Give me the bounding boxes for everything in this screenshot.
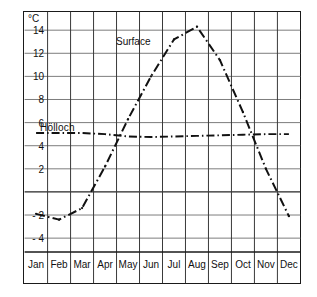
x-tick-sep: Sep — [211, 259, 229, 270]
chart-plot-area — [0, 0, 317, 297]
series-label-holloch: Hölloch — [40, 122, 75, 133]
y-tick-neg4: - 4 — [18, 233, 44, 244]
x-tick-oct: Oct — [235, 259, 251, 270]
x-tick-apr: Apr — [97, 259, 113, 270]
x-tick-dec: Dec — [280, 259, 298, 270]
x-tick-aug: Aug — [188, 259, 206, 270]
y-tick-4: 4 — [18, 140, 44, 151]
y-tick-10: 10 — [18, 71, 44, 82]
temperature-chart: °C 1412108642- 2- 4 JanFebMarAprMayJunJu… — [0, 0, 317, 297]
x-tick-jan: Jan — [28, 259, 44, 270]
x-tick-may: May — [119, 259, 138, 270]
series-label-surface: Surface — [116, 36, 150, 47]
x-tick-jul: Jul — [168, 259, 181, 270]
y-tick-14: 14 — [18, 25, 44, 36]
y-tick-neg2: - 2 — [18, 210, 44, 221]
y-axis-tick-labels: 1412108642- 2- 4 — [0, 0, 44, 297]
x-tick-jun: Jun — [143, 259, 159, 270]
x-tick-feb: Feb — [50, 259, 67, 270]
y-tick-8: 8 — [18, 94, 44, 105]
y-tick-12: 12 — [18, 48, 44, 59]
x-tick-nov: Nov — [257, 259, 275, 270]
x-tick-mar: Mar — [73, 259, 90, 270]
y-tick-2: 2 — [18, 163, 44, 174]
